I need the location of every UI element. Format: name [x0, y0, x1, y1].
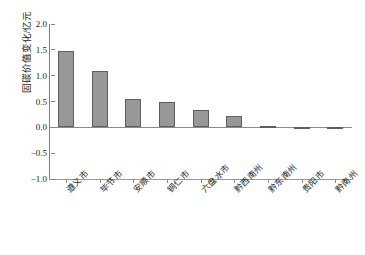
- x-axis-label: 遵义市: [63, 167, 91, 195]
- y-tick-mark: [51, 101, 55, 102]
- y-tick: 2.0: [7, 19, 55, 29]
- x-axis-label: 黔南州: [332, 167, 360, 195]
- y-tick: 1.5: [7, 45, 55, 55]
- bar: [294, 127, 310, 129]
- carbon-value-change-bar-chart: 固碳价值变化/亿元 2.01.51.00.50.0−0.5−1.0 遵义市毕节市…: [0, 0, 365, 255]
- x-axis-label: 毕节市: [97, 167, 125, 195]
- y-tick-label: −1.0: [31, 174, 47, 184]
- y-tick: 1.0: [7, 71, 55, 81]
- y-tick-label: 1.5: [36, 45, 47, 55]
- y-tick-mark: [51, 153, 55, 154]
- bar: [92, 71, 108, 128]
- x-axis-label: 黔东南州: [265, 161, 299, 195]
- y-tick-label: 0.5: [36, 97, 47, 107]
- y-tick-mark: [51, 179, 55, 180]
- y-tick-label: 1.0: [36, 71, 47, 81]
- bar: [159, 102, 175, 128]
- bar: [327, 127, 343, 129]
- bar: [260, 126, 276, 128]
- y-tick: −0.5: [7, 148, 55, 158]
- y-tick-label: 2.0: [36, 19, 47, 29]
- y-tick: 0.0: [7, 122, 55, 132]
- y-tick: −1.0: [7, 174, 55, 184]
- bar: [226, 116, 242, 127]
- x-axis-label: 六盘水市: [198, 161, 232, 195]
- y-tick-mark: [51, 49, 55, 50]
- y-tick-mark: [51, 75, 55, 76]
- plot-area: 2.01.51.00.50.0−0.5−1.0 遵义市毕节市安顺市铜仁市六盘水市…: [49, 24, 352, 179]
- y-tick-label: −0.5: [31, 148, 47, 158]
- bar: [58, 51, 74, 127]
- bar: [193, 110, 209, 128]
- x-axis-label: 安顺市: [130, 167, 158, 195]
- y-tick-label: 0.0: [36, 122, 47, 132]
- y-tick: 0.5: [7, 97, 55, 107]
- x-axis-label: 贵阳市: [299, 167, 327, 195]
- bar: [125, 99, 141, 127]
- y-tick-mark: [51, 127, 55, 128]
- x-axis-label: 铜仁市: [164, 167, 192, 195]
- x-axis-label: 黔西南州: [231, 161, 265, 195]
- y-tick-mark: [51, 24, 55, 25]
